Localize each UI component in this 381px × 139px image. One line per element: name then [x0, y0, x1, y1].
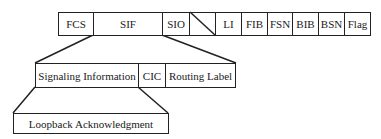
field-loopback-acknowledgment: Loopback Acknowledgment: [13, 113, 169, 134]
field-fsn: FSN: [267, 12, 293, 36]
field-cic: CIC: [138, 63, 166, 88]
field-li: LI: [215, 12, 242, 36]
field-routing-label: Routing Label: [165, 63, 236, 88]
field-fib: FIB: [241, 12, 268, 36]
field-bsn: BSN: [318, 12, 345, 36]
field-flag: Flag: [344, 12, 371, 36]
field-sif: SIF: [93, 12, 163, 36]
field-spare: [189, 12, 216, 36]
field-sio: SIO: [162, 12, 190, 36]
field-fcs: FCS: [58, 12, 94, 36]
field-bib: BIB: [292, 12, 319, 36]
field-signaling-information: Signaling Information: [35, 63, 139, 88]
